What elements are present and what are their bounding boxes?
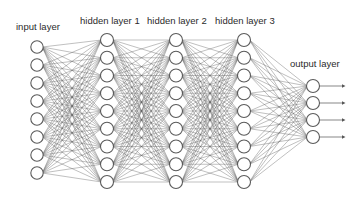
output-neuron-3 [307,114,320,127]
hidden2-neuron-7 [170,140,183,153]
hidden1-neuron-1 [101,34,114,47]
hidden2-neuron-5 [170,105,183,118]
hidden3-neuron-7 [238,140,251,153]
input-layer-label: input layer [16,21,60,32]
hidden1-neuron-4 [101,87,114,100]
hidden-layer-2-label: hidden layer 2 [147,15,207,26]
hidden2-neuron-9 [170,176,183,189]
hidden3-neuron-5 [238,105,251,118]
hidden1-neuron-8 [101,158,114,171]
hidden3-neuron-3 [238,69,251,82]
neural-network-diagram: input layer hidden layer 1 hidden layer … [0,0,364,205]
hidden2-neuron-6 [170,122,183,135]
hidden-layer-1-label: hidden layer 1 [80,15,140,26]
output-neuron-1 [307,80,320,93]
input-neuron-2 [31,59,43,71]
hidden3-neuron-1 [238,34,251,47]
input-neuron-7 [31,149,43,161]
hidden3-neuron-2 [238,51,251,64]
hidden2-neuron-1 [170,34,183,47]
input-neuron-4 [31,95,43,107]
input-neuron-8 [31,167,43,179]
output-neuron-4 [307,131,320,144]
input-neuron-6 [31,131,43,143]
input-neuron-5 [31,113,43,125]
hidden1-neuron-6 [101,122,114,135]
hidden1-neuron-7 [101,140,114,153]
hidden1-neuron-3 [101,69,114,82]
hidden1-neuron-2 [101,51,114,64]
input-neuron-3 [31,77,43,89]
output-neuron-2 [307,97,320,110]
hidden3-neuron-6 [238,122,251,135]
input-neuron-1 [31,41,43,53]
hidden2-neuron-4 [170,87,183,100]
hidden-layer-3-label: hidden layer 3 [215,15,275,26]
hidden3-neuron-8 [238,158,251,171]
hidden3-neuron-4 [238,87,251,100]
output-layer-label: output layer [290,58,340,69]
hidden2-neuron-2 [170,51,183,64]
hidden3-neuron-9 [238,176,251,189]
hidden2-neuron-8 [170,158,183,171]
hidden1-neuron-5 [101,105,114,118]
hidden1-neuron-9 [101,176,114,189]
hidden2-neuron-3 [170,69,183,82]
